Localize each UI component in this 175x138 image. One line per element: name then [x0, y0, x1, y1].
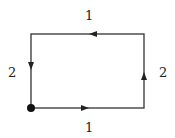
arrow-left-icon	[89, 31, 97, 37]
arrow-up-icon	[141, 72, 147, 80]
start-point-dot	[27, 104, 35, 112]
edge-label-bottom: 1	[85, 121, 93, 134]
arrow-right-icon	[81, 105, 89, 111]
edge-label-top: 1	[85, 9, 93, 22]
edge-label-left: 2	[8, 66, 16, 79]
arrow-down-icon	[28, 62, 34, 70]
edge-label-right: 2	[159, 66, 167, 79]
loop-rectangle	[31, 34, 144, 108]
